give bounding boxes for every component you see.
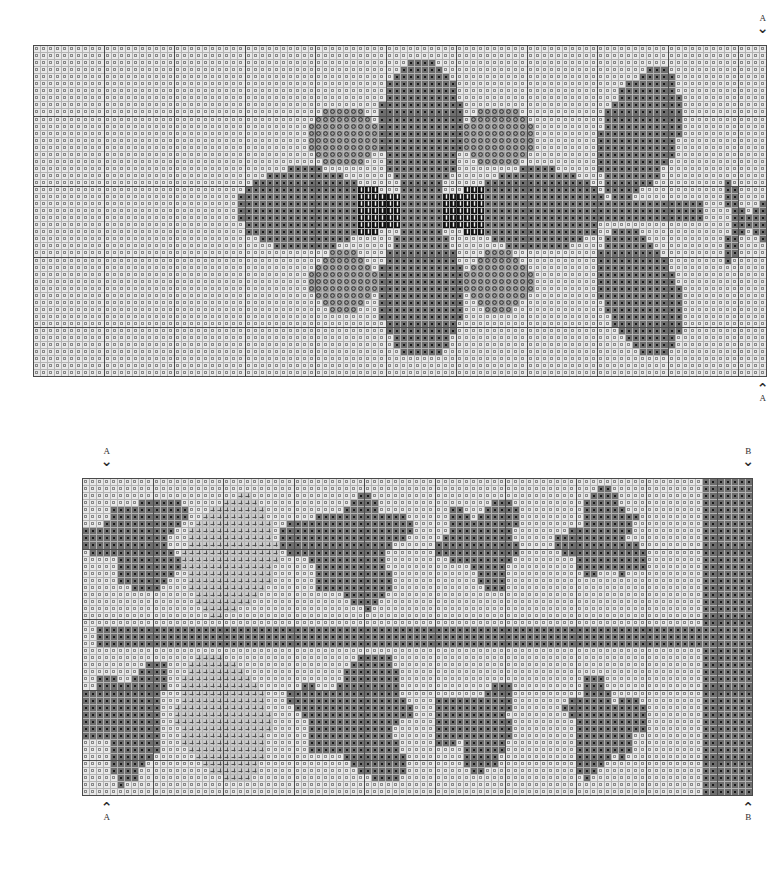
section-marker-a-bottom: ⌃A (751, 383, 775, 403)
section-marker-label: A (95, 813, 119, 822)
section-marker-label: A (751, 394, 775, 403)
chevron-down-icon: ⌄ (95, 456, 119, 467)
section-marker-a-top: A⌄ (95, 447, 119, 467)
lower-chart-canvas[interactable] (82, 478, 753, 796)
chevron-down-icon: ⌄ (736, 456, 760, 467)
chevron-down-icon: ⌄ (751, 23, 775, 34)
upper-chart-canvas[interactable] (33, 45, 767, 377)
section-marker-a-bottom: ⌃A (95, 802, 119, 822)
section-marker-label: B (736, 813, 760, 822)
pattern-page: A⌄⌃AA⌄B⌄⌃A⌃B (0, 0, 780, 869)
lower-pattern-chart[interactable] (82, 478, 753, 796)
section-marker-b-top: B⌄ (736, 447, 760, 467)
upper-pattern-chart[interactable] (33, 45, 767, 377)
section-marker-b-bottom: ⌃B (736, 802, 760, 822)
section-marker-a-top: A⌄ (751, 14, 775, 34)
